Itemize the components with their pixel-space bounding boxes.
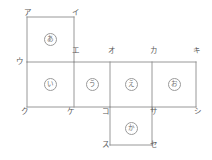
face-a-label: あ	[44, 33, 57, 46]
face-o-label: お	[168, 78, 181, 91]
face-ka-label: か	[125, 122, 138, 135]
vertex-o-label: オ	[108, 47, 115, 55]
vertex-su-label: ス	[102, 141, 109, 149]
vertex-sa-label: サ	[150, 108, 157, 116]
vertex-ka-label: カ	[150, 47, 157, 55]
vertex-u-label: ウ	[16, 58, 23, 66]
vertex-se-label: セ	[150, 141, 157, 149]
net-line-drawing	[0, 0, 212, 160]
vertex-shi-label: シ	[194, 108, 201, 116]
face-e-label: え	[125, 78, 138, 91]
face-i-label: い	[44, 78, 57, 91]
vertex-ki-label: キ	[193, 47, 200, 55]
cube-net-figure: アイウエオカキクケコサシスセ あいうえおか	[0, 0, 212, 160]
vertex-a-label: ア	[24, 9, 31, 17]
vertex-ke-label: ケ	[67, 108, 74, 116]
vertex-e-label: エ	[72, 47, 79, 55]
vertex-ku-label: ク	[21, 108, 28, 116]
face-u-label: う	[86, 78, 99, 91]
vertex-i-label: イ	[72, 9, 79, 17]
vertex-ko-label: コ	[102, 108, 109, 116]
